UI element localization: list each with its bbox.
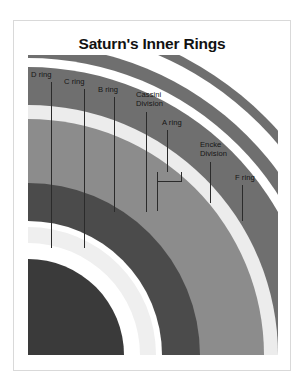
page-title: Saturn's Inner Rings	[14, 35, 290, 53]
ring-bands-svg	[28, 55, 278, 355]
saturn-rings-figure: Saturn's Inner Rings	[0, 0, 304, 391]
ring-diagram-stage	[28, 55, 278, 355]
figure-card: Saturn's Inner Rings	[13, 20, 291, 371]
ring-bands-group	[28, 55, 278, 355]
